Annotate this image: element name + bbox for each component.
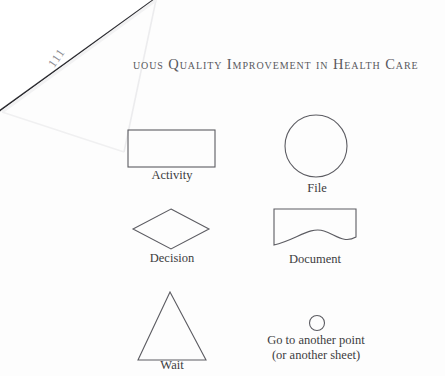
file-label: File (265, 181, 369, 196)
activity-label: Activity (120, 168, 224, 183)
document-shape-wave (270, 206, 360, 252)
document-label: Document (263, 252, 367, 267)
decision-shape-diamond (131, 206, 213, 252)
running-header: uous Quality Improvement in Health Care (133, 56, 433, 73)
wait-label: Wait (120, 358, 224, 373)
wait-shape-triangle (136, 288, 210, 364)
connector-shape-small-circle (307, 313, 327, 333)
scanned-page: 111 uous Quality Improvement in Health C… (0, 0, 445, 376)
connector-label: Go to another point (or another sheet) (246, 333, 386, 363)
connector-label-line2: (or another sheet) (246, 348, 386, 363)
activity-shape-rectangle (126, 128, 218, 170)
decision-label: Decision (120, 251, 224, 266)
file-shape-circle (283, 113, 351, 181)
connector-label-line1: Go to another point (246, 333, 386, 348)
